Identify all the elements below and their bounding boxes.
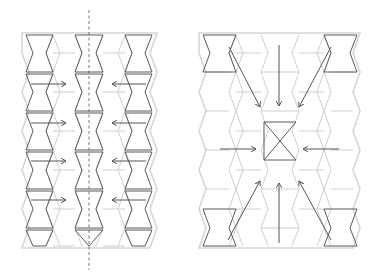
corner-cell-top-left — [203, 35, 236, 72]
left-outline — [22, 33, 157, 248]
diagram-canvas — [0, 0, 381, 272]
right-panel — [199, 33, 360, 248]
corner-cell-top-right — [324, 35, 357, 72]
center-cell — [264, 122, 296, 160]
left-panel — [22, 10, 157, 270]
right-highlight-cells — [203, 35, 357, 246]
